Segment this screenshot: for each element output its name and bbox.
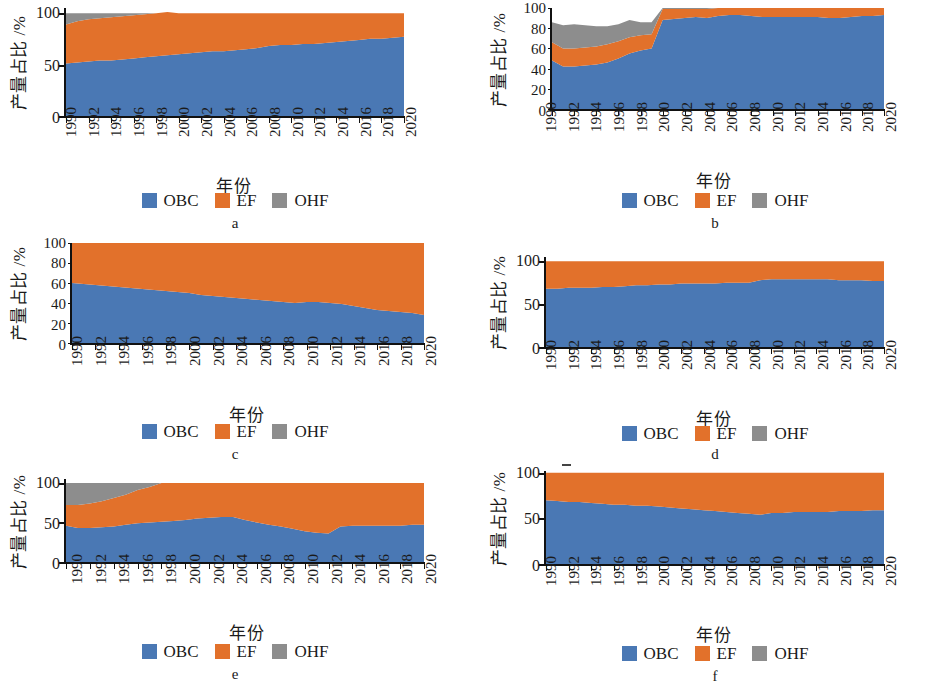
panel-b: 产量占比 /% 020406080100 1990199219941996199… — [480, 0, 949, 233]
x-tick-label-2014: 2014 — [353, 554, 368, 584]
x-tick-label-1998: 1998 — [635, 102, 650, 132]
x-tick-label-2014: 2014 — [353, 336, 368, 366]
legend-item-ef[interactable]: EF — [215, 423, 257, 440]
legend-swatch — [695, 193, 710, 208]
panel-e-x-tick-labels: 1990199219941996199820002002200420062008… — [70, 569, 424, 625]
panel-c-y-tick-mark — [68, 263, 72, 264]
legend-label-obc: OBC — [164, 423, 199, 440]
x-tick-label-2014: 2014 — [816, 556, 831, 586]
legend-item-obc[interactable]: OBC — [622, 192, 679, 209]
legend-item-ef[interactable]: EF — [695, 645, 737, 662]
panel-b-y-tick-mark — [548, 8, 552, 9]
x-tick-label-1996: 1996 — [141, 554, 156, 584]
panel-c: 产量占比 /% 020406080100 1990199219941996199… — [0, 233, 480, 461]
x-tick-label-2004: 2004 — [703, 340, 718, 370]
x-tick-label-1990: 1990 — [70, 554, 85, 584]
x-tick-label-2012: 2012 — [313, 107, 328, 137]
legend-item-ohf[interactable]: OHF — [272, 643, 328, 660]
x-tick-label-1992: 1992 — [567, 556, 582, 586]
x-tick-label-2008: 2008 — [268, 107, 283, 137]
panel-d-plot: 产量占比 /% 050100 — [484, 257, 884, 349]
legend-item-ohf[interactable]: OHF — [272, 423, 328, 440]
x-tick-label-2004: 2004 — [703, 102, 718, 132]
legend-swatch — [752, 646, 767, 661]
legend-item-obc[interactable]: OBC — [142, 423, 199, 440]
legend-item-ohf[interactable]: OHF — [752, 645, 808, 662]
panel-a-axes — [64, 8, 404, 118]
panel-b-y-tick-mark — [548, 48, 552, 49]
panel-a-letter: a — [40, 216, 430, 231]
panel-a-y-tick-mark — [59, 65, 66, 67]
x-tick-label-2004: 2004 — [235, 554, 250, 584]
x-tick-label-2002: 2002 — [680, 340, 695, 370]
legend-item-ohf[interactable]: OHF — [272, 192, 328, 209]
panel-e-y-tick-mark — [59, 522, 66, 524]
x-tick-label-2002: 2002 — [212, 554, 227, 584]
legend-item-obc[interactable]: OBC — [142, 192, 199, 209]
x-tick-label-2010: 2010 — [306, 554, 321, 584]
x-tick-label-1996: 1996 — [141, 336, 156, 366]
legend-swatch — [142, 644, 157, 659]
legend-item-obc[interactable]: OBC — [142, 643, 199, 660]
x-tick-label-1994: 1994 — [589, 340, 604, 370]
legend-label-ef: EF — [237, 643, 257, 660]
legend-label-ef: EF — [717, 192, 737, 209]
panel-a-y-tick-0: 0 — [52, 110, 60, 126]
legend-label-obc: OBC — [644, 645, 679, 662]
panel-c-plot-area — [72, 243, 424, 343]
panel-c-y-tick-mark — [68, 283, 72, 284]
x-tick-label-2000: 2000 — [177, 107, 192, 137]
x-tick-label-2006: 2006 — [245, 107, 260, 137]
panel-e-x-tick-mark — [138, 562, 139, 569]
legend-item-obc[interactable]: OBC — [622, 425, 679, 442]
x-tick-label-1990: 1990 — [544, 556, 559, 586]
legend-item-ef[interactable]: EF — [695, 425, 737, 442]
legend-swatch — [142, 193, 157, 208]
panel-d-legend: OBCEFOHF — [520, 425, 910, 442]
panel-d-y-axis-title: 产量占比 /% — [484, 257, 510, 349]
legend-item-ef[interactable]: EF — [215, 192, 257, 209]
legend-item-ohf[interactable]: OHF — [752, 425, 808, 442]
legend-swatch — [272, 424, 287, 439]
x-tick-label-2010: 2010 — [771, 556, 786, 586]
panel-f-plot-area — [546, 471, 884, 564]
x-tick-label-2006: 2006 — [725, 102, 740, 132]
legend-item-ohf[interactable]: OHF — [752, 192, 808, 209]
panel-b-axes — [550, 8, 884, 111]
x-tick-label-2012: 2012 — [793, 340, 808, 370]
panel-e-y-tick-mark — [59, 562, 66, 564]
x-tick-label-2002: 2002 — [200, 107, 215, 137]
panel-c-letter: c — [40, 447, 430, 462]
legend-item-ef[interactable]: EF — [695, 192, 737, 209]
series-area-obc — [546, 279, 884, 347]
panel-b-x-tick-labels: 1990199219941996199820002002200420062008… — [544, 117, 884, 173]
x-tick-label-2016: 2016 — [377, 336, 392, 366]
legend-label-ohf: OHF — [774, 192, 808, 209]
legend-item-ef[interactable]: EF — [215, 643, 257, 660]
panel-f: 产量占比 /% 050100 1990199219941996199820002… — [480, 461, 949, 697]
panel-c-y-tick-20: 20 — [51, 317, 66, 332]
panel-b-y-tick-80: 80 — [531, 21, 546, 36]
panel-f-letter: f — [520, 669, 910, 684]
legend-item-obc[interactable]: OBC — [622, 645, 679, 662]
x-tick-label-1992: 1992 — [94, 336, 109, 366]
x-tick-label-2004: 2004 — [223, 107, 238, 137]
panel-b-y-tick-mark — [548, 69, 552, 70]
panel-f-x-tick-labels: 1990199219941996199820002002200420062008… — [544, 571, 884, 627]
panel-b-plot-area — [552, 8, 884, 109]
panel-a-y-tick-mark — [59, 13, 66, 15]
x-tick-label-2016: 2016 — [839, 102, 854, 132]
panel-e-x-axis-title: 年份 — [70, 619, 424, 644]
legend-label-ef: EF — [717, 425, 737, 442]
legend-swatch — [215, 424, 230, 439]
legend-label-obc: OBC — [164, 643, 199, 660]
panel-b-legend: OBCEFOHF — [520, 192, 910, 209]
panel-b-y-axis-title: 产量占比 /% — [484, 8, 510, 111]
x-tick-label-1998: 1998 — [164, 554, 179, 584]
x-tick-label-2008: 2008 — [748, 556, 763, 586]
x-tick-label-2020: 2020 — [884, 340, 899, 370]
panel-e: 产量占比 /% 050100 1990199219941996199820002… — [0, 461, 480, 697]
panel-d: 产量占比 /% 050100 1990199219941996199820002… — [480, 233, 949, 461]
panel-e-letter: e — [40, 667, 430, 682]
panel-b-y-tick-60: 60 — [531, 42, 546, 57]
